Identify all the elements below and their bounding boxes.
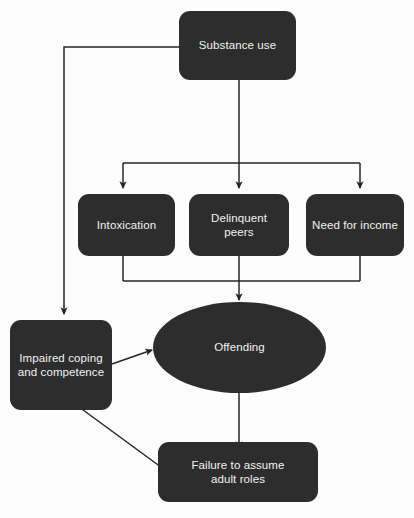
node-failure-adult-roles-label: Failure to assume adult roles — [191, 458, 284, 487]
node-delinquent-peers-label: Delinquent peers — [195, 211, 283, 240]
node-impaired-coping-label: Impaired coping and competence — [18, 351, 104, 380]
edge-impaired-to-offending — [112, 350, 152, 364]
node-intoxication[interactable]: Intoxication — [78, 194, 175, 256]
node-offending-label: Offending — [214, 340, 265, 355]
edge-substance-to-impaired — [64, 47, 179, 314]
node-substance-use[interactable]: Substance use — [179, 11, 296, 80]
node-need-for-income-label: Need for income — [312, 218, 398, 233]
node-need-for-income[interactable]: Need for income — [306, 194, 404, 256]
node-delinquent-peers[interactable]: Delinquent peers — [189, 194, 289, 256]
node-substance-use-label: Substance use — [199, 38, 276, 53]
flowchart-diagram: Substance use Intoxication Delinquent pe… — [0, 0, 414, 518]
node-offending[interactable]: Offending — [153, 302, 326, 393]
node-intoxication-label: Intoxication — [97, 218, 156, 233]
node-failure-adult-roles[interactable]: Failure to assume adult roles — [158, 442, 318, 502]
node-impaired-coping[interactable]: Impaired coping and competence — [10, 320, 112, 410]
edge-impaired-to-failure — [79, 407, 165, 470]
